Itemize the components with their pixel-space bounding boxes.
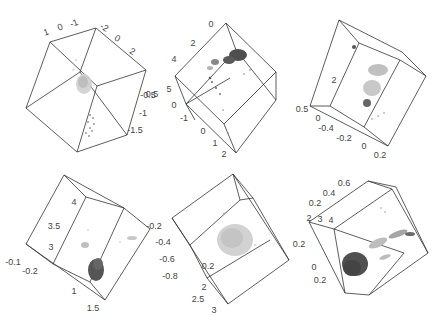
axis-tick-label: 1 <box>42 27 50 38</box>
axis-tick-label: -0.4 <box>318 123 334 133</box>
axis-tick-label: 5 <box>166 84 171 94</box>
scatter-points <box>81 229 137 281</box>
axis-tick-label: 3.5 <box>48 221 61 231</box>
scatter-points <box>72 59 95 137</box>
axis-tick-label: 0.5 <box>146 89 159 99</box>
axis-tick-label: 2 <box>190 38 195 48</box>
axis-tick-label: 1 <box>212 138 217 148</box>
axis-tick-label: 3 <box>48 242 53 252</box>
axis-tick-label: 0 <box>315 113 320 123</box>
axis-tick-label: 0.5 <box>296 104 309 114</box>
axis-tick-label: 2 <box>306 213 311 223</box>
axis-tick-label: -0.2 <box>22 266 38 276</box>
axis-tick-label: 0 <box>311 262 316 272</box>
axis-tick-label: -0.2 <box>336 133 352 143</box>
axis-tick-label: -0.8 <box>162 271 178 281</box>
axis-tick-label: -0.1 <box>5 257 21 267</box>
panel-bottom-middle <box>172 174 289 304</box>
axis-tick-label: 0 <box>200 126 205 136</box>
axis-tick-label: 1 <box>71 286 76 296</box>
axis-tick-label: 0 <box>208 19 213 29</box>
axis-tick-label: 2 <box>128 46 137 57</box>
scatter-points <box>217 212 256 256</box>
scatter-points <box>352 45 388 120</box>
axis-tick-label: 2.5 <box>192 294 205 304</box>
axis-tick-label: 0.2 <box>202 261 215 271</box>
axis-tick-label: 2 <box>331 75 336 85</box>
axis-tick-label: 1.5 <box>87 303 100 313</box>
axis-tick-label: 0.2 <box>314 275 327 285</box>
axis-tick-label: 2 <box>221 149 226 159</box>
axis-tick-label: 3 <box>211 305 216 315</box>
axis-tick-label: -1 <box>139 108 147 118</box>
axis-tick-label: 0.2 <box>374 150 387 160</box>
axis-tick-label: 0.2 <box>293 239 306 249</box>
axis-tick-label: 0.2 <box>309 198 322 208</box>
axis-tick-label: 2 <box>201 282 206 292</box>
figure-3d-scatter-grid: 10-1-202-0.5-1-1.502450-10120.520.50-0.4… <box>0 0 448 323</box>
axis-tick-label: 0 <box>171 100 176 110</box>
axis-tick-label: 4 <box>171 54 176 64</box>
cube-frame <box>309 181 428 295</box>
axis-tick-label: -1 <box>68 17 79 29</box>
scatter-points <box>342 207 415 276</box>
axis-tick-label: 4 <box>71 197 76 207</box>
axis-tick-label: -0.2 <box>146 221 162 231</box>
axis-tick-label: 0.4 <box>323 188 336 198</box>
axis-tick-label: 3 <box>317 214 322 224</box>
tick-labels: 10-1-202-0.5-1-1.502450-10120.520.50-0.4… <box>5 17 386 315</box>
axis-tick-label: 0 <box>361 141 366 151</box>
axis-tick-label: -0.4 <box>155 237 171 247</box>
axis-tick-label: 4 <box>328 215 333 225</box>
axis-tick-label: -0.6 <box>159 254 175 264</box>
panel-bottom-right <box>309 181 428 295</box>
axis-tick-label: 0 <box>56 22 64 33</box>
panel-bottom-left <box>26 175 150 300</box>
axis-tick-label: 0.6 <box>338 178 351 188</box>
scatter-points <box>207 49 251 134</box>
axis-tick-label: 0 <box>113 33 122 44</box>
axis-tick-label: -1 <box>180 113 188 123</box>
axis-tick-label: -1.5 <box>127 125 143 135</box>
